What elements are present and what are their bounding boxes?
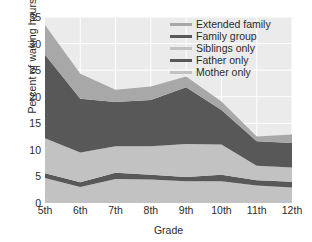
x-axis-tick-7th: 7th (108, 205, 123, 216)
legend-item-label: Siblings only (196, 43, 255, 54)
x-axis-tick-11th: 11th (247, 205, 267, 216)
legend-item-label: Extended family (196, 19, 271, 30)
legend: Extended familyFamily groupSiblings only… (170, 19, 271, 78)
legend-swatch-icon (170, 35, 192, 38)
y-axis-tick-30: 30 (1, 38, 41, 49)
legend-item-label: Mother only (196, 67, 251, 78)
legend-swatch-icon (170, 23, 192, 26)
x-axis-tick-10th: 10th (211, 205, 231, 216)
y-axis-tick-15: 15 (1, 118, 41, 129)
y-axis-tick-20: 20 (1, 91, 41, 102)
legend-item-father-only[interactable]: Father only (170, 55, 271, 66)
y-axis-tick-5: 5 (1, 171, 41, 182)
stacked-area-chart: Percent of waking hours 05101520253035 5… (0, 0, 312, 242)
legend-swatch-icon (170, 47, 192, 50)
legend-item-mother-only[interactable]: Mother only (170, 67, 271, 78)
y-axis-tick-25: 25 (1, 65, 41, 76)
legend-item-extended-family[interactable]: Extended family (170, 19, 271, 30)
legend-item-label: Father only (196, 55, 249, 66)
x-axis-tick-9th: 9th (179, 205, 194, 216)
x-axis-tick-8th: 8th (144, 205, 159, 216)
legend-swatch-icon (170, 71, 192, 74)
legend-item-family-group[interactable]: Family group (170, 31, 271, 42)
y-axis-tick-0: 0 (1, 198, 41, 209)
x-axis-tick-labels: 5th6th7th8th9th10th11th12th (45, 205, 292, 221)
x-axis-tick-5th: 5th (38, 205, 53, 216)
x-axis-tick-12th: 12th (282, 205, 302, 216)
x-axis-title: Grade (45, 224, 292, 236)
y-axis-tick-10: 10 (1, 145, 41, 156)
legend-item-siblings-only[interactable]: Siblings only (170, 43, 271, 54)
y-axis-tick-35: 35 (1, 12, 41, 23)
x-axis-tick-6th: 6th (73, 205, 88, 216)
y-axis-tick-labels: 05101520253035 (0, 17, 41, 203)
legend-item-label: Family group (196, 31, 257, 42)
legend-swatch-icon (170, 59, 192, 62)
